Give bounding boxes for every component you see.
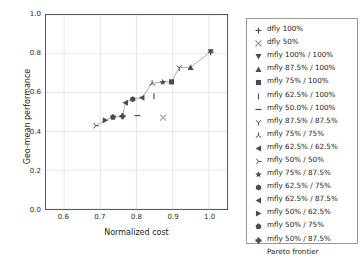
chart-screenshot: 0.60.70.80.91.0 0.00.20.40.60.81.0 Norma… xyxy=(0,0,362,263)
legend-item[interactable]: mfly 87.5% / 87.5% xyxy=(250,114,355,127)
legend-item[interactable]: mfly 62.5% / 100% xyxy=(250,87,355,100)
legend-label: dfly 100% xyxy=(267,22,303,35)
legend-label: dfly 50% xyxy=(267,35,299,48)
chart-legend: dfly 100%dfly 50%mfly 100% / 100%mfly 87… xyxy=(246,18,358,244)
data-series-layer xyxy=(46,15,229,211)
legend-item[interactable]: mfly 100% / 100% xyxy=(250,48,355,61)
legend-item[interactable]: mfly 50% / 87.5% xyxy=(250,232,355,245)
legend-label: mfly 50.0% / 100% xyxy=(267,101,335,114)
legend-item[interactable]: mfly 62.5% / 75% xyxy=(250,179,355,192)
legend-item[interactable]: mfly 75% / 100% xyxy=(250,74,355,87)
legend-marker-tri-right-icon xyxy=(250,153,267,166)
legend-item[interactable]: mfly 50% / 50% xyxy=(250,153,355,166)
legend-item[interactable]: mfly 50.0% / 100% xyxy=(250,101,355,114)
y-tick-label: 0.0 xyxy=(22,206,41,214)
x-axis-label: Normalized cost xyxy=(45,228,228,237)
legend-label: mfly 100% / 100% xyxy=(267,48,333,61)
legend-marker-hexagon-icon xyxy=(250,179,267,192)
legend-marker-plus-icon xyxy=(250,22,267,35)
legend-label: mfly 75% / 87.5% xyxy=(267,166,331,179)
legend-marker-tri-down-icon xyxy=(250,114,267,127)
x-tick-label: 1.0 xyxy=(204,213,215,221)
legend-label: mfly 50% / 50% xyxy=(267,153,324,166)
legend-marker-triangle-right-f-icon xyxy=(250,205,267,218)
legend-label: mfly 87.5% / 100% xyxy=(267,61,335,74)
legend-marker-star-icon xyxy=(250,166,267,179)
legend-label: mfly 87.5% / 87.5% xyxy=(267,114,338,127)
legend-marker-plus-filled-icon xyxy=(250,232,267,245)
legend-label: mfly 62.5% / 100% xyxy=(267,88,335,101)
legend-item[interactable]: mfly 62.5% / 62.5% xyxy=(250,140,355,153)
legend-item[interactable]: mfly 50% / 75% xyxy=(250,218,355,231)
legend-marker-tri-up-icon xyxy=(250,127,267,140)
legend-marker-line-icon xyxy=(250,245,267,258)
legend-label: mfly 50% / 87.5% xyxy=(267,232,331,245)
legend-label: mfly 50% / 75% xyxy=(267,218,324,231)
legend-line-swatch xyxy=(251,251,266,252)
legend-item[interactable]: mfly 75% / 87.5% xyxy=(250,166,355,179)
legend-label: mfly 62.5% / 75% xyxy=(267,179,331,192)
legend-item[interactable]: mfly 50% / 62.5% xyxy=(250,205,355,218)
legend-marker-triangle-left-icon xyxy=(250,140,267,153)
legend-label: mfly 75% / 100% xyxy=(267,74,329,87)
legend-label: Pareto frontier xyxy=(267,245,319,258)
plot-area xyxy=(45,14,228,210)
legend-item[interactable]: mfly 87.5% / 100% xyxy=(250,61,355,74)
legend-marker-pentagon-icon xyxy=(250,218,267,231)
y-axis-label: Geo-mean performance xyxy=(23,52,32,182)
legend-label: mfly 62.5% / 87.5% xyxy=(267,192,338,205)
legend-label: mfly 50% / 62.5% xyxy=(267,205,331,218)
legend-item[interactable]: mfly 75% / 75% xyxy=(250,127,355,140)
legend-marker-vline-icon xyxy=(250,88,267,101)
legend-marker-hline-icon xyxy=(250,101,267,114)
x-tick-label: 0.7 xyxy=(94,213,105,221)
x-tick-label: 0.6 xyxy=(58,213,69,221)
y-tick-label: 1.0 xyxy=(22,10,41,18)
legend-marker-x-icon xyxy=(250,35,267,48)
legend-marker-triangle-up-icon xyxy=(250,61,267,74)
x-tick-label: 0.8 xyxy=(131,213,142,221)
legend-marker-triangle-left-f-icon xyxy=(250,192,267,205)
legend-item[interactable]: dfly 100% xyxy=(250,22,355,35)
legend-label: mfly 62.5% / 62.5% xyxy=(267,140,338,153)
legend-item[interactable]: Pareto frontier xyxy=(250,245,355,258)
legend-item[interactable]: mfly 62.5% / 87.5% xyxy=(250,192,355,205)
legend-marker-square-icon xyxy=(250,74,267,87)
x-tick-label: 0.9 xyxy=(168,213,179,221)
legend-marker-triangle-down-icon xyxy=(250,48,267,61)
legend-item[interactable]: dfly 50% xyxy=(250,35,355,48)
legend-label: mfly 75% / 75% xyxy=(267,127,324,140)
scatter-figure: 0.60.70.80.91.0 0.00.20.40.60.81.0 Norma… xyxy=(0,0,362,263)
